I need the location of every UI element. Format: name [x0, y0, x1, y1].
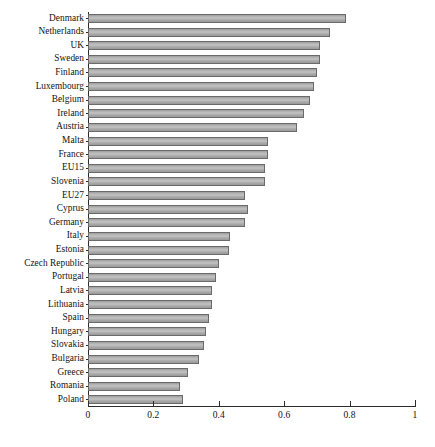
bar — [88, 164, 265, 173]
bar — [88, 41, 320, 50]
bar — [88, 327, 206, 336]
bar — [88, 150, 268, 159]
category-label: Netherlands — [0, 27, 84, 37]
category-label: Lithuania — [0, 300, 84, 310]
x-axis-tick-label: 0.2 — [133, 410, 173, 421]
bar — [88, 191, 245, 200]
category-label: Denmark — [0, 14, 84, 24]
x-axis-tick — [350, 401, 351, 407]
bar-chart: DenmarkNetherlandsUKSwedenFinlandLuxembo… — [0, 0, 435, 447]
category-label: Belgium — [0, 95, 84, 105]
category-label: Ireland — [0, 109, 84, 119]
x-axis-tick-label: 0.4 — [199, 410, 239, 421]
category-label: EU27 — [0, 191, 84, 201]
category-label: Poland — [0, 395, 84, 405]
bar — [88, 96, 310, 105]
category-label: Hungary — [0, 327, 84, 337]
category-label: Germany — [0, 218, 84, 228]
bar-row: Poland — [0, 395, 435, 409]
bar-row: Netherlands — [0, 28, 435, 42]
bar — [88, 123, 297, 132]
bar-row: Slovenia — [0, 177, 435, 191]
x-axis-tick — [415, 401, 416, 407]
bar — [88, 82, 314, 91]
bar — [88, 218, 245, 227]
x-axis-tick-label: 1 — [395, 410, 435, 421]
x-axis-tick-label: 0 — [68, 410, 108, 421]
bar — [88, 28, 330, 37]
category-label: EU15 — [0, 163, 84, 173]
category-label: Spain — [0, 313, 84, 323]
category-label: Portugal — [0, 272, 84, 282]
bar — [88, 300, 212, 309]
category-label: France — [0, 150, 84, 160]
category-label: Romania — [0, 381, 84, 391]
category-label: Slovakia — [0, 340, 84, 350]
bar — [88, 341, 204, 350]
category-label: Slovenia — [0, 177, 84, 187]
bar — [88, 246, 229, 255]
category-label: Luxembourg — [0, 82, 84, 92]
bar — [88, 14, 346, 23]
bar — [88, 205, 248, 214]
category-label: Greece — [0, 368, 84, 378]
bar — [88, 382, 180, 391]
x-axis-tick — [88, 401, 89, 407]
category-label: Bulgaria — [0, 354, 84, 364]
x-axis-tick — [284, 401, 285, 407]
bar — [88, 68, 317, 77]
bar — [88, 286, 212, 295]
bar — [88, 368, 188, 377]
category-label: Italy — [0, 231, 84, 241]
x-axis-tick-label: 0.8 — [330, 410, 370, 421]
bar — [88, 109, 304, 118]
bar — [88, 137, 268, 146]
category-label: Austria — [0, 122, 84, 132]
category-label: Malta — [0, 136, 84, 146]
category-label: Cyprus — [0, 204, 84, 214]
category-label: Estonia — [0, 245, 84, 255]
bar — [88, 273, 216, 282]
x-axis-tick-label: 0.6 — [264, 410, 304, 421]
bar — [88, 232, 230, 241]
x-axis-tick — [153, 401, 154, 407]
category-label: Finland — [0, 68, 84, 78]
bar — [88, 55, 320, 64]
bar-row: Germany — [0, 218, 435, 232]
category-label: Czech Republic — [0, 259, 84, 269]
category-label: Sweden — [0, 54, 84, 64]
x-axis-tick — [219, 401, 220, 407]
bar — [88, 177, 265, 186]
bar — [88, 355, 199, 364]
bar — [88, 314, 209, 323]
bar-row: Latvia — [0, 286, 435, 300]
category-label: Latvia — [0, 286, 84, 296]
bar — [88, 259, 219, 268]
bar — [88, 395, 183, 404]
category-label: UK — [0, 41, 84, 51]
